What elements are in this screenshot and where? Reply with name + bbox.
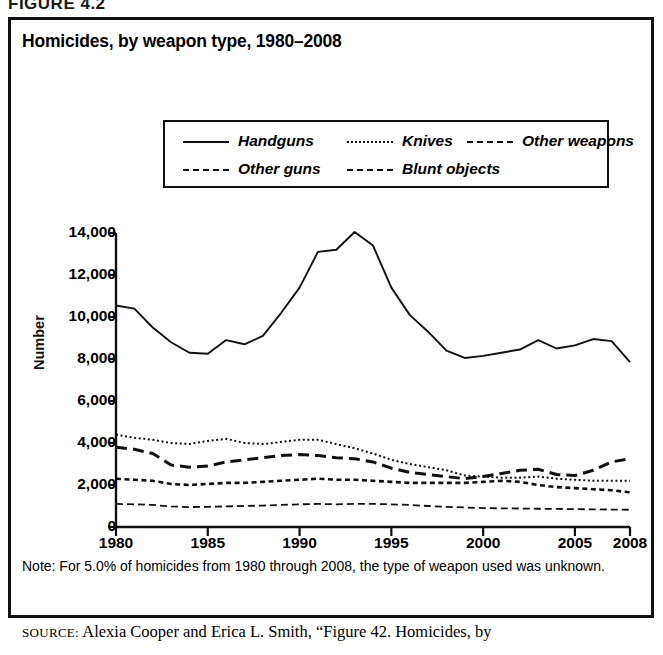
series-line-other-guns xyxy=(116,447,630,479)
source-body: Alexia Cooper and Erica L. Smith, “Figur… xyxy=(79,622,491,641)
chart-source: SOURCE: Alexia Cooper and Erica L. Smith… xyxy=(22,622,652,642)
chart-note: Note: For 5.0% of homicides from 1980 th… xyxy=(22,557,628,575)
source-prefix: SOURCE: xyxy=(22,625,79,640)
series-line-handguns xyxy=(116,232,630,362)
series-line-blunt-objects xyxy=(116,504,630,510)
series-line-other-weapons xyxy=(116,479,630,493)
